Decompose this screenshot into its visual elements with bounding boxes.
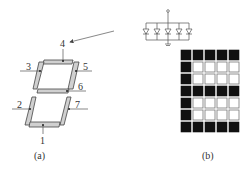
segment-6 xyxy=(37,89,69,93)
pointer-arrow xyxy=(70,31,114,42)
matrix-cell-off xyxy=(229,110,239,120)
matrix-cell-off xyxy=(205,110,215,120)
matrix-cell-off xyxy=(193,62,203,72)
label-3: 3 xyxy=(26,61,31,72)
label-7: 7 xyxy=(75,99,80,110)
matrix-cell-off xyxy=(205,62,215,72)
diode-2 xyxy=(154,23,160,40)
diode-5 xyxy=(186,23,192,40)
matrix-cell-on xyxy=(217,86,227,96)
matrix-cell-off xyxy=(217,98,227,108)
matrix-cell-on xyxy=(193,50,203,60)
matrix-cell-off xyxy=(217,110,227,120)
segment-4 xyxy=(43,60,73,64)
matrix-cell-off xyxy=(229,74,239,84)
matrix-cell-on xyxy=(205,50,215,60)
matrix-cell-on xyxy=(181,62,191,72)
matrix-cell-on xyxy=(193,122,203,132)
matrix-cell-off xyxy=(205,74,215,84)
matrix-cell-off xyxy=(193,98,203,108)
matrix-cell-off xyxy=(229,98,239,108)
matrix-cell-on xyxy=(181,122,191,132)
matrix-cell-on xyxy=(181,74,191,84)
label-6: 6 xyxy=(78,81,83,92)
label-4: 4 xyxy=(60,38,65,49)
matrix-cell-off xyxy=(229,62,239,72)
diode-3 xyxy=(165,23,171,40)
matrix-grid xyxy=(181,50,239,132)
matrix-cell-on xyxy=(205,122,215,132)
led-array-schematic xyxy=(70,10,192,46)
seven-segment-display: 4 3 5 6 2 7 1 (a) xyxy=(12,38,92,162)
segment-7 xyxy=(60,97,71,125)
matrix-cell-on xyxy=(217,122,227,132)
matrix-cell-on xyxy=(229,122,239,132)
segment-2 xyxy=(25,97,36,125)
dot-matrix-display: (b) xyxy=(181,50,239,162)
matrix-cell-on xyxy=(181,50,191,60)
matrix-cell-off xyxy=(193,74,203,84)
diode-1 xyxy=(143,23,149,40)
label-5: 5 xyxy=(83,61,88,72)
matrix-cell-off xyxy=(193,110,203,120)
matrix-cell-on xyxy=(229,86,239,96)
matrix-cell-on xyxy=(181,98,191,108)
segment-1 xyxy=(29,122,60,127)
matrix-cell-on xyxy=(193,86,203,96)
matrix-cell-on xyxy=(205,86,215,96)
caption-b: (b) xyxy=(202,150,214,162)
matrix-cell-off xyxy=(217,74,227,84)
label-1: 1 xyxy=(40,135,45,146)
segment-display-diagram: 4 3 5 6 2 7 1 (a) (b) xyxy=(0,0,250,173)
matrix-cell-off xyxy=(217,62,227,72)
matrix-cell-on xyxy=(217,50,227,60)
matrix-cell-on xyxy=(181,86,191,96)
diode-4 xyxy=(176,23,182,40)
matrix-cell-on xyxy=(181,110,191,120)
label-2: 2 xyxy=(17,99,22,110)
matrix-cell-on xyxy=(229,50,239,60)
segment-3 xyxy=(33,62,44,89)
matrix-cell-off xyxy=(205,98,215,108)
caption-a: (a) xyxy=(34,150,45,162)
